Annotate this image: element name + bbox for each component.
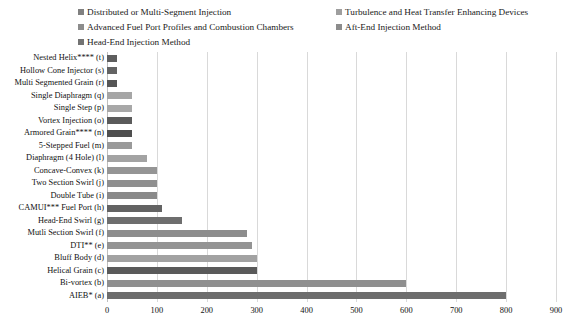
legend-item-label: Head-End Injection Method	[87, 37, 190, 47]
gridline	[406, 52, 407, 302]
bar	[107, 217, 182, 224]
bar-row	[107, 240, 252, 253]
x-axis-tick-label: 0	[105, 306, 109, 316]
bar-row	[107, 152, 147, 165]
bar	[107, 205, 162, 212]
bar	[107, 292, 506, 299]
bar-row	[107, 165, 157, 178]
bar-row	[107, 215, 182, 228]
y-axis-category-label: Diaphragm (4 Hole) (l)	[26, 153, 104, 162]
x-axis-tick-label: 300	[250, 306, 263, 316]
legend-item-turbulence-devices: Turbulence and Heat Transfer Enhancing D…	[336, 7, 528, 17]
y-axis-category-label: 5-Stepped Fuel (m)	[39, 141, 104, 150]
x-axis-tick-label: 200	[200, 306, 213, 316]
x-axis-tick-label: 400	[300, 306, 313, 316]
bar-row	[107, 127, 132, 140]
legend-item-advanced-fuel-port: Advanced Fuel Port Profiles and Combusti…	[78, 22, 294, 32]
bar-row	[107, 140, 132, 153]
bar	[107, 142, 132, 149]
y-axis-category-label: Nested Helix**** (t)	[33, 53, 104, 62]
legend-swatch-icon	[78, 24, 84, 30]
y-axis-category-label: Head-End Swirl (g)	[38, 216, 104, 225]
legend-item-label: Turbulence and Heat Transfer Enhancing D…	[345, 7, 528, 17]
y-axis-category-label: Vortex Injection (o)	[38, 116, 104, 125]
bar	[107, 117, 132, 124]
bar	[107, 230, 247, 237]
bar-row	[107, 102, 132, 115]
gridline	[456, 52, 457, 302]
bar	[107, 255, 257, 262]
bar	[107, 267, 257, 274]
y-axis-category-label: Single Diaphragm (q)	[31, 91, 104, 100]
x-axis-tick-label: 700	[450, 306, 463, 316]
bar-row	[107, 177, 157, 190]
bar	[107, 192, 157, 199]
bar	[107, 155, 147, 162]
bar	[107, 105, 132, 112]
plot-area	[107, 52, 565, 302]
gridline	[257, 52, 258, 302]
bar	[107, 80, 117, 87]
y-axis-category-label: Double Tube (i)	[50, 191, 104, 200]
y-axis-category-label: Helical Grain (c)	[47, 266, 104, 275]
legend-item-label: Aft-End Injection Method	[345, 22, 441, 32]
bar	[107, 280, 406, 287]
chart-legend: Distributed or Multi-Segment Injection A…	[0, 0, 573, 50]
y-axis-category-label: Single Step (p)	[54, 103, 104, 112]
bar	[107, 130, 132, 137]
bar	[107, 67, 117, 74]
x-axis-tick-label: 100	[151, 306, 164, 316]
y-axis-category-label: Bluff Body (d)	[54, 253, 104, 262]
bar	[107, 55, 117, 62]
bar	[107, 167, 157, 174]
y-axis-category-label: DTI** (e)	[70, 241, 104, 250]
legend-swatch-icon	[336, 24, 342, 30]
bar-row	[107, 252, 257, 265]
bar-row	[107, 190, 157, 203]
gridline	[506, 52, 507, 302]
bar-row	[107, 202, 162, 215]
gridline	[356, 52, 357, 302]
bar	[107, 180, 157, 187]
bar	[107, 92, 132, 99]
gridline	[556, 52, 557, 302]
category-axis: Nested Helix**** (t)Hollow Cone Injector…	[0, 52, 107, 302]
bar-row	[107, 77, 117, 90]
bar-row	[107, 265, 257, 278]
bar-row	[107, 277, 406, 290]
bar-row	[107, 115, 132, 128]
bar-row	[107, 290, 506, 303]
x-axis-tick-label: 800	[500, 306, 513, 316]
legend-item-aft-end-injection: Aft-End Injection Method	[336, 22, 441, 32]
y-axis-category-label: Hollow Cone Injector (s)	[20, 66, 104, 75]
bar-row	[107, 90, 132, 103]
legend-swatch-icon	[78, 9, 84, 15]
y-axis-category-label: Two Section Swirl (j)	[32, 178, 104, 187]
legend-item-label: Advanced Fuel Port Profiles and Combusti…	[87, 22, 294, 32]
bar	[107, 242, 252, 249]
x-axis-tick-label: 500	[350, 306, 363, 316]
bar-row	[107, 52, 117, 65]
y-axis-category-label: Bi-vortex (b)	[60, 278, 104, 287]
legend-item-head-end-injection: Head-End Injection Method	[78, 37, 190, 47]
x-axis-tick-label: 600	[400, 306, 413, 316]
x-axis-tick-label: 900	[550, 306, 563, 316]
bar-chart: Nested Helix**** (t)Hollow Cone Injector…	[0, 52, 573, 327]
legend-item-distributed-injection: Distributed or Multi-Segment Injection	[78, 7, 231, 17]
bar-row	[107, 65, 117, 78]
value-axis: 0100200300400500600700800900	[0, 302, 573, 327]
legend-swatch-icon	[78, 39, 84, 45]
y-axis-category-label: Multi Segmented Grain (r)	[14, 78, 104, 87]
y-axis-category-label: Mutli Section Swirl (f)	[27, 228, 104, 237]
y-axis-category-label: CAMUI*** Fuel Port (h)	[19, 203, 104, 212]
legend-swatch-icon	[336, 9, 342, 15]
y-axis-category-label: Concave-Convex (k)	[34, 166, 104, 175]
y-axis-category-label: AIEB* (a)	[69, 291, 104, 300]
bar-row	[107, 227, 247, 240]
y-axis-category-label: Armored Grain**** (n)	[24, 128, 104, 137]
gridline	[307, 52, 308, 302]
legend-item-label: Distributed or Multi-Segment Injection	[87, 7, 231, 17]
